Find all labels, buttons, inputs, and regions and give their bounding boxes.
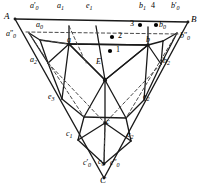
label-c1: c1 bbox=[66, 130, 73, 139]
label-a0-dprime: a″0 bbox=[6, 30, 16, 39]
label-b0-dprime: b″0 bbox=[180, 32, 190, 41]
label-vertex-B: B bbox=[191, 15, 197, 24]
dashed-horizontal-a0b0 bbox=[26, 32, 178, 34]
label-e1: e1 bbox=[86, 2, 93, 11]
label-c0: c0 bbox=[98, 158, 105, 167]
label-c0-dprime: c″0 bbox=[110, 159, 120, 168]
label-a0-prime: a′0 bbox=[30, 2, 38, 11]
marker-label-3: 3 bbox=[130, 20, 134, 28]
label-c0-prime: c′0 bbox=[83, 159, 91, 168]
dashed-b0prime-c2 bbox=[126, 33, 177, 118]
marker-dot-3 bbox=[138, 23, 142, 27]
triangle-a-b-E bbox=[69, 44, 148, 80]
label-c: c bbox=[106, 118, 110, 126]
label-vertex-A: A bbox=[4, 12, 10, 21]
label-vertex-C: C bbox=[100, 176, 106, 185]
geometry-figure: A B C a′0 a1 a0 a″0 a a2 e3 c1 c′0 e1 E … bbox=[0, 0, 202, 188]
label-b1: b1 bbox=[139, 2, 146, 11]
label-c2: c2 bbox=[127, 131, 134, 140]
segment-a2-a bbox=[48, 44, 69, 63]
label-a: a bbox=[67, 36, 71, 44]
segment-b2-b bbox=[148, 45, 161, 64]
label-a1: a1 bbox=[57, 2, 64, 11]
marker-label-1: 1 bbox=[116, 46, 120, 54]
label-b0: b0 bbox=[159, 21, 166, 30]
label-tick-4: 4 bbox=[151, 2, 155, 10]
marker-dot-2 bbox=[110, 35, 114, 39]
node-E bbox=[103, 78, 107, 82]
label-b2: b2 bbox=[163, 57, 170, 66]
node-B bbox=[187, 21, 190, 24]
label-E: E bbox=[96, 58, 101, 66]
label-e2: e2 bbox=[143, 93, 150, 102]
marker-label-2: 2 bbox=[118, 32, 122, 40]
segment-e3-a bbox=[62, 44, 69, 99]
node-A bbox=[14, 18, 17, 21]
label-e3: e3 bbox=[48, 93, 55, 102]
dashed-a0prime-c1 bbox=[29, 33, 84, 117]
label-b: b bbox=[146, 36, 150, 44]
label-a2: a2 bbox=[30, 56, 37, 65]
label-b0-prime: b′0 bbox=[171, 2, 179, 11]
label-a0: a0 bbox=[36, 21, 43, 30]
marker-dot-1 bbox=[108, 49, 112, 53]
marker-dot-4 bbox=[154, 23, 158, 27]
segment-b0-b bbox=[148, 41, 163, 45]
